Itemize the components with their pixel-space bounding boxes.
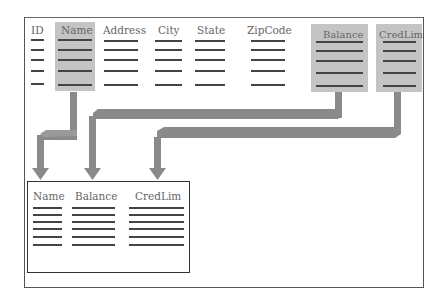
- row-line: [72, 214, 115, 216]
- row-line: [129, 221, 184, 223]
- row-line: [33, 207, 62, 209]
- row-line: [33, 214, 62, 216]
- arrow-name: [32, 92, 77, 180]
- result-header-name: Name: [33, 190, 65, 202]
- row-line: [72, 244, 115, 246]
- row-line: [129, 236, 184, 238]
- row-line: [129, 244, 184, 246]
- row-line: [33, 236, 62, 238]
- result-header-credlim: CredLim: [135, 190, 181, 202]
- row-line: [72, 228, 115, 230]
- row-line: [129, 207, 184, 209]
- result-header-balance: Balance: [75, 190, 117, 202]
- row-line: [72, 221, 115, 223]
- row-line: [33, 221, 62, 223]
- row-line: [72, 207, 115, 209]
- row-line: [129, 228, 184, 230]
- row-line: [129, 214, 184, 216]
- row-line: [33, 228, 62, 230]
- arrow-credlim: [149, 92, 401, 180]
- row-line: [72, 236, 115, 238]
- row-line: [33, 244, 62, 246]
